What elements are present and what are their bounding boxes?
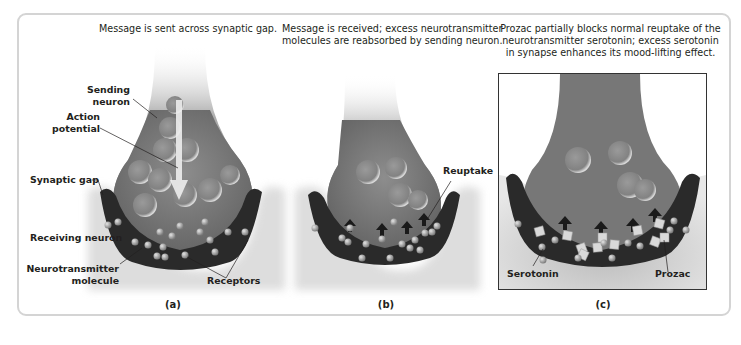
panel-c-letter: (c) [588, 299, 618, 310]
label-serotonin: Serotonin [507, 268, 559, 280]
label-receiving-neuron: Receiving neuron [30, 232, 122, 244]
panel-a-art [88, 45, 285, 290]
label-neurotransmitter-molecule: Neurotransmitter molecule [20, 263, 119, 286]
label-sending-neuron: Sending neuron [60, 84, 130, 107]
label-reuptake: Reuptake [443, 165, 493, 177]
panel-a-letter: (a) [158, 299, 188, 310]
panel-b-letter: (b) [371, 299, 401, 310]
panel-c-border [498, 73, 707, 290]
panel-b-art [295, 75, 480, 290]
label-synaptic-gap: Synaptic gap [30, 174, 99, 186]
label-action-potential: Action potential [30, 111, 100, 134]
label-receptors: Receptors [207, 275, 260, 287]
panel-b-caption: Message is received; excess neurotransmi… [282, 23, 507, 47]
panel-a-caption: Message is sent across synaptic gap. [78, 23, 298, 35]
panel-c-caption: Prozac partially blocks normal reuptake … [498, 23, 723, 59]
label-prozac: Prozac [655, 268, 690, 280]
